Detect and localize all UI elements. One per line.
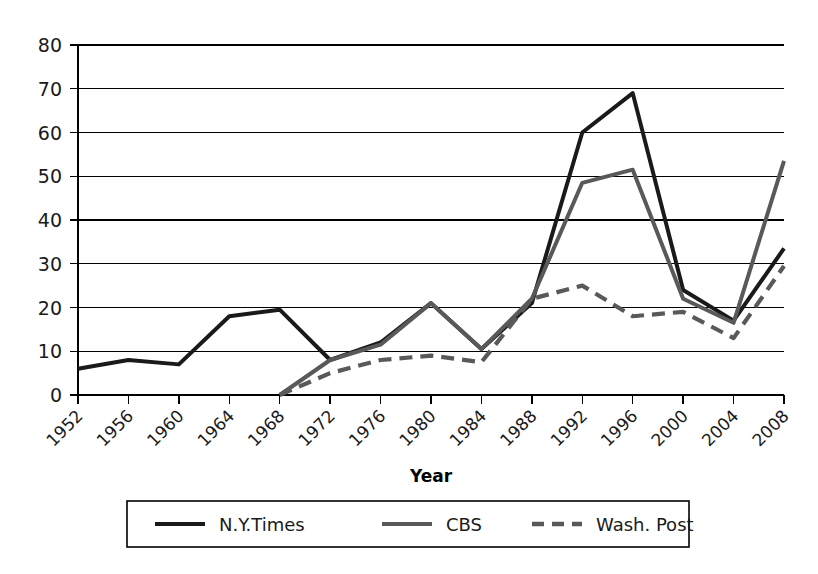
- legend-label: N.Y.Times: [219, 514, 305, 535]
- data-series-group: [78, 93, 784, 395]
- y-tick-label: 30: [38, 253, 62, 275]
- x-tick-label: 2000: [647, 406, 692, 451]
- x-tick-label: 1956: [93, 406, 138, 451]
- y-tick-labels-group: 01020304050607080: [38, 34, 62, 406]
- x-tick-label: 2004: [698, 406, 743, 451]
- legend-entries-group: N.Y.TimesCBSWash. Post: [155, 514, 694, 535]
- x-tick-labels-group: 1952195619601964196819721976198019841988…: [42, 406, 793, 451]
- y-tick-label: 50: [38, 165, 62, 187]
- x-tick-label: 1972: [294, 406, 339, 451]
- x-tick-label: 1996: [597, 406, 642, 451]
- x-axis-title: Year: [409, 466, 453, 486]
- y-tick-label: 60: [38, 122, 62, 144]
- x-tick-label: 1964: [193, 406, 238, 451]
- series-line: [280, 266, 784, 395]
- y-tick-label: 10: [38, 340, 62, 362]
- x-tick-label: 1976: [345, 406, 390, 451]
- y-tick-label: 40: [38, 209, 62, 231]
- x-tick-label: 1984: [446, 406, 491, 451]
- x-tick-label: 1988: [496, 406, 541, 451]
- y-tick-label: 0: [50, 384, 62, 406]
- legend-label: Wash. Post: [596, 514, 694, 535]
- chart-container: 01020304050607080 1952195619601964196819…: [0, 0, 818, 574]
- x-tick-label: 1952: [42, 406, 87, 451]
- series-line: [78, 93, 784, 369]
- y-tick-label: 70: [38, 78, 62, 100]
- x-tick-label: 1968: [244, 406, 289, 451]
- x-tick-label: 1992: [546, 406, 591, 451]
- gridlines-group: [78, 45, 784, 395]
- line-chart: 01020304050607080 1952195619601964196819…: [0, 0, 818, 574]
- y-tick-label: 80: [38, 34, 62, 56]
- x-tick-label: 2008: [748, 406, 793, 451]
- legend-label: CBS: [446, 514, 482, 535]
- y-tick-label: 20: [38, 297, 62, 319]
- x-tickmarks-group: [78, 395, 784, 404]
- x-tick-label: 1980: [395, 406, 440, 451]
- x-tick-label: 1960: [143, 406, 188, 451]
- series-line: [280, 161, 784, 395]
